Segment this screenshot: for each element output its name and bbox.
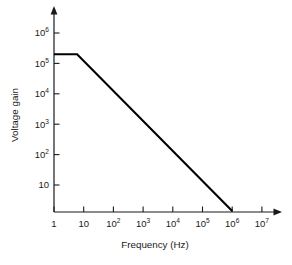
y-tick-labels: 10 102 103 104 105 106 — [35, 26, 50, 190]
y-tick-label: 106 — [35, 26, 50, 38]
y-tick-marks — [54, 33, 60, 185]
y-axis-title: Voltage gain — [9, 88, 20, 142]
bode-plot-svg: 10 102 103 104 105 106 1 10 102 103 104 … — [0, 0, 292, 265]
x-tick-label: 103 — [136, 217, 151, 229]
x-axis-arrow-icon — [274, 209, 283, 216]
x-tick-label: 107 — [255, 217, 270, 229]
x-tick-label: 106 — [225, 217, 240, 229]
y-tick-label: 105 — [35, 57, 50, 69]
x-tick-labels: 1 10 102 103 104 105 106 107 — [51, 217, 269, 229]
x-tick-label: 104 — [166, 217, 181, 229]
x-tick-label: 1 — [51, 218, 56, 229]
y-tick-label: 104 — [35, 87, 50, 99]
x-tick-label: 105 — [195, 217, 210, 229]
y-axis-arrow-icon — [51, 6, 58, 15]
y-tick-label: 10 — [38, 179, 49, 190]
x-tick-label: 10 — [78, 218, 89, 229]
chart-figure: 10 102 103 104 105 106 1 10 102 103 104 … — [0, 0, 292, 265]
x-axis-title: Frequency (Hz) — [121, 239, 189, 250]
voltage-gain-curve — [54, 54, 232, 211]
y-tick-label: 102 — [35, 148, 50, 160]
y-tick-label: 103 — [35, 118, 50, 130]
x-tick-label: 102 — [106, 217, 121, 229]
